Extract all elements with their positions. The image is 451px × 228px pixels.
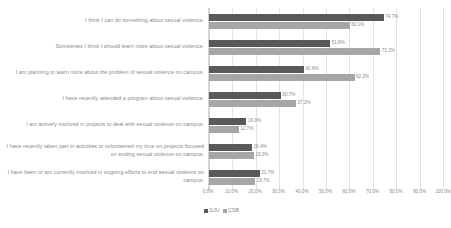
- bar-sju[interactable]: [209, 14, 384, 21]
- bar-value-label: 40.6%: [306, 67, 319, 72]
- axis-tick-label: 80.0%: [389, 190, 402, 195]
- axis-tick-label: 20.0%: [248, 190, 261, 195]
- bar-sju[interactable]: [209, 118, 246, 125]
- category-label-text: I have recently attended a program about…: [62, 95, 204, 103]
- category-label: I think I can do something about sexual …: [0, 8, 204, 34]
- bar-row: 37.2%: [209, 100, 443, 107]
- category-label: I am actively involved in projects to de…: [0, 112, 204, 138]
- category-axis: I think I can do something about sexual …: [0, 8, 208, 190]
- plot-wrapper: I think I can do something about sexual …: [0, 8, 443, 190]
- axis-tick-label: 10.0%: [225, 190, 238, 195]
- axis-tick-label: 100.0%: [435, 190, 451, 195]
- bar-value-label: 51.8%: [332, 41, 345, 46]
- axis-tick-label: 60.0%: [342, 190, 355, 195]
- category-label: I am planning to learn more about the pr…: [0, 60, 204, 86]
- bar-value-label: 16.0%: [248, 119, 261, 124]
- bar-group: 40.6%62.2%: [209, 60, 443, 86]
- bar-value-label: 21.7%: [261, 171, 274, 176]
- bar-csb[interactable]: [209, 178, 255, 185]
- bar-groups: 74.7%60.1%51.8%73.2%40.6%62.2%30.7%37.2%…: [209, 8, 443, 190]
- bar-sju[interactable]: [209, 66, 304, 73]
- bar-row: 73.2%: [209, 48, 443, 55]
- category-label-text: I think I can do something about sexual …: [85, 17, 204, 25]
- axis-tick-label: 70.0%: [366, 190, 379, 195]
- gridline: [443, 8, 444, 190]
- category-label-text: Sometimes I think I should learn more ab…: [55, 43, 204, 51]
- category-label-text: I am planning to learn more about the pr…: [16, 69, 204, 77]
- bar-row: 51.8%: [209, 40, 443, 47]
- bar-csb[interactable]: [209, 100, 296, 107]
- bar-row: 21.7%: [209, 170, 443, 177]
- bar-group: 18.4%19.2%: [209, 138, 443, 164]
- category-label-text: I have been or am currently involved in …: [0, 169, 204, 185]
- bar-row: 19.2%: [209, 152, 443, 159]
- bar-value-label: 18.4%: [254, 145, 267, 150]
- chart-legend: SJUCSB: [0, 208, 443, 213]
- bar-csb[interactable]: [209, 126, 239, 133]
- bar-value-label: 19.2%: [255, 153, 268, 158]
- bar-group: 21.7%19.7%: [209, 164, 443, 190]
- axis-tick-label: 90.0%: [413, 190, 426, 195]
- bar-group: 30.7%37.2%: [209, 86, 443, 112]
- bar-group: 51.8%73.2%: [209, 34, 443, 60]
- legend-swatch-icon: [223, 209, 227, 213]
- bar-value-label: 30.7%: [282, 93, 295, 98]
- bar-row: 18.4%: [209, 144, 443, 151]
- bar-row: 12.7%: [209, 126, 443, 133]
- bar-value-label: 73.2%: [382, 49, 395, 54]
- bar-sju[interactable]: [209, 40, 330, 47]
- legend-item-sju[interactable]: SJU: [204, 208, 220, 213]
- category-label-text: I have recently taken part in activities…: [0, 143, 204, 159]
- axis-tick-label: 40.0%: [295, 190, 308, 195]
- axis-tick-label: 50.0%: [319, 190, 332, 195]
- bar-csb[interactable]: [209, 48, 380, 55]
- bar-value-label: 12.7%: [240, 127, 253, 132]
- bar-value-label: 60.1%: [351, 23, 364, 28]
- bar-value-label: 19.7%: [257, 179, 270, 184]
- bar-sju[interactable]: [209, 170, 260, 177]
- category-label: Sometimes I think I should learn more ab…: [0, 34, 204, 60]
- bar-group: 16.0%12.7%: [209, 112, 443, 138]
- value-axis: 0.0%10.0%20.0%30.0%40.0%50.0%60.0%70.0%8…: [208, 190, 443, 200]
- axis-tick-label: 0.0%: [203, 190, 213, 195]
- bar-row: 40.6%: [209, 66, 443, 73]
- category-label: I have recently attended a program about…: [0, 86, 204, 112]
- bar-row: 30.7%: [209, 92, 443, 99]
- bar-csb[interactable]: [209, 22, 350, 29]
- plot-area: 74.7%60.1%51.8%73.2%40.6%62.2%30.7%37.2%…: [208, 8, 443, 190]
- axis-tick-label: 30.0%: [272, 190, 285, 195]
- category-label: I have recently taken part in activities…: [0, 138, 204, 164]
- legend-label: CSB: [228, 208, 239, 213]
- bar-sju[interactable]: [209, 144, 252, 151]
- bar-group: 74.7%60.1%: [209, 8, 443, 34]
- bar-value-label: 62.2%: [356, 75, 369, 80]
- bar-csb[interactable]: [209, 152, 254, 159]
- bar-value-label: 74.7%: [385, 15, 398, 20]
- bar-row: 62.2%: [209, 74, 443, 81]
- category-label: I have been or am currently involved in …: [0, 164, 204, 190]
- bar-row: 74.7%: [209, 14, 443, 21]
- legend-item-csb[interactable]: CSB: [223, 208, 240, 213]
- legend-label: SJU: [209, 208, 219, 213]
- legend-swatch-icon: [204, 209, 208, 213]
- category-label-text: I am actively involved in projects to de…: [26, 121, 204, 129]
- bar-csb[interactable]: [209, 74, 355, 81]
- bar-row: 60.1%: [209, 22, 443, 29]
- bar-value-label: 37.2%: [298, 101, 311, 106]
- bar-row: 16.0%: [209, 118, 443, 125]
- bar-sju[interactable]: [209, 92, 281, 99]
- bar-row: 19.7%: [209, 178, 443, 185]
